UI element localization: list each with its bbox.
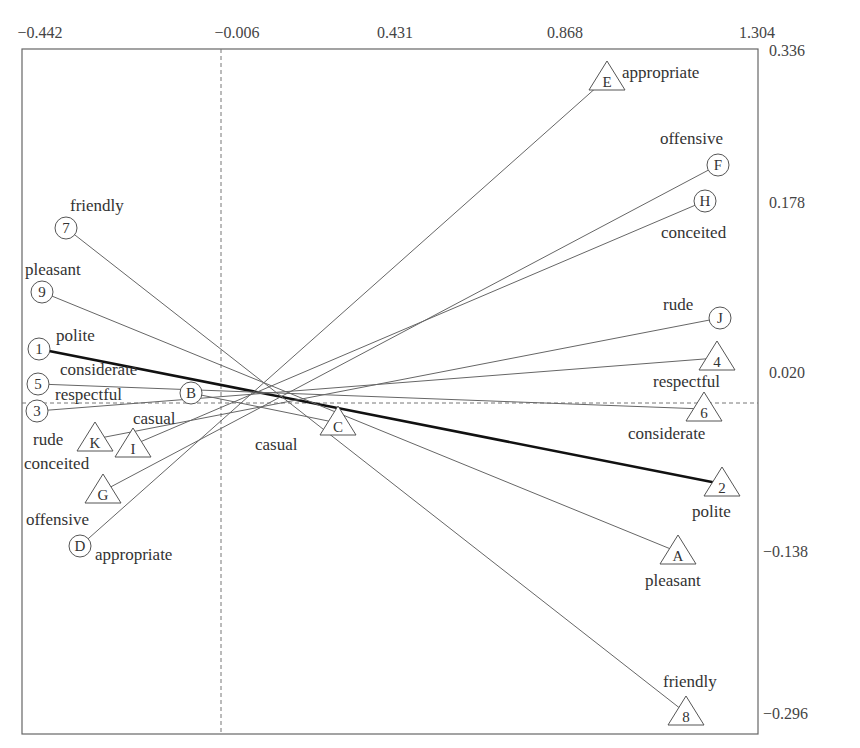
svg-text:4: 4 <box>713 354 721 370</box>
circle-marker-1: 1 <box>28 338 50 360</box>
point-label: rude <box>33 430 63 449</box>
point-label: respectful <box>55 385 122 404</box>
svg-text:G: G <box>98 487 109 503</box>
triangle-marker-G: G <box>85 474 121 503</box>
x-tick-label: −0.006 <box>214 24 259 41</box>
svg-text:C: C <box>333 419 343 435</box>
connection-line <box>66 228 686 713</box>
connection-line <box>133 201 705 445</box>
svg-text:K: K <box>90 435 101 451</box>
svg-text:6: 6 <box>700 405 708 421</box>
point-label: casual <box>255 435 298 454</box>
triangle-marker-A: A <box>660 535 696 564</box>
svg-text:5: 5 <box>34 376 42 392</box>
point-label: pleasant <box>645 571 701 590</box>
circle-marker-D: D <box>69 535 91 557</box>
y-tick-label: −0.138 <box>763 543 808 560</box>
y-axis-ticks: 0.3360.1780.020−0.138−0.296 <box>763 42 808 722</box>
point-label: polite <box>692 502 731 521</box>
point-label: offensive <box>660 129 723 148</box>
circle-marker-9: 9 <box>31 281 53 303</box>
point-label: pleasant <box>25 260 81 279</box>
svg-text:I: I <box>131 441 136 457</box>
triangle-marker-4: 4 <box>699 341 735 370</box>
point-label: polite <box>56 326 95 345</box>
triangle-marker-8: 8 <box>668 696 704 725</box>
point-label: considerate <box>60 360 137 379</box>
point-label: casual <box>133 409 176 428</box>
point-label: respectful <box>653 372 720 391</box>
triangle-marker-6: 6 <box>686 392 722 421</box>
svg-text:3: 3 <box>33 403 41 419</box>
x-tick-label: 0.868 <box>547 24 583 41</box>
circle-marker-H: H <box>694 190 716 212</box>
point-label: friendly <box>70 196 124 215</box>
point-labels: appropriateoffensiveconceitedruderespect… <box>24 63 731 691</box>
x-axis-ticks: −0.442−0.0060.4310.8681.304 <box>17 24 775 41</box>
x-tick-label: −0.442 <box>17 24 62 41</box>
connection-line <box>38 384 704 409</box>
circle-marker-B: B <box>180 382 202 404</box>
x-tick-label: 0.431 <box>377 24 413 41</box>
svg-text:7: 7 <box>62 220 70 236</box>
connection-line <box>80 78 607 546</box>
point-label: considerate <box>628 424 705 443</box>
svg-text:D: D <box>75 538 86 554</box>
svg-text:E: E <box>602 74 611 90</box>
point-label: conceited <box>661 223 727 242</box>
x-tick-label: 1.304 <box>739 24 775 41</box>
svg-text:F: F <box>714 157 722 173</box>
y-tick-label: 0.020 <box>769 364 805 381</box>
point-label: appropriate <box>95 545 172 564</box>
svg-text:J: J <box>717 310 723 326</box>
plot-frame <box>22 49 758 734</box>
point-label: offensive <box>26 510 89 529</box>
biplot-chart: −0.442−0.0060.4310.8681.304 0.3360.1780.… <box>0 0 860 748</box>
svg-text:9: 9 <box>38 284 46 300</box>
point-label: appropriate <box>622 63 699 82</box>
circle-marker-5: 5 <box>27 373 49 395</box>
connection-lines <box>37 78 722 713</box>
circle-marker-3: 3 <box>26 400 48 422</box>
connection-line <box>191 393 338 423</box>
svg-text:1: 1 <box>35 341 43 357</box>
circle-marker-F: F <box>707 154 729 176</box>
triangle-marker-I: I <box>115 428 151 457</box>
point-label: conceited <box>24 454 90 473</box>
svg-text:2: 2 <box>718 480 726 496</box>
circle-marker-J: J <box>709 307 731 329</box>
svg-text:8: 8 <box>682 709 690 725</box>
circle-marker-7: 7 <box>55 217 77 239</box>
y-tick-label: 0.336 <box>769 42 805 59</box>
svg-text:A: A <box>673 548 684 564</box>
svg-text:B: B <box>186 385 196 401</box>
point-markers: 123456789ABCDEFGHIJK <box>26 61 740 725</box>
svg-text:H: H <box>700 193 711 209</box>
triangle-marker-E: E <box>589 61 625 90</box>
y-tick-label: −0.296 <box>763 705 808 722</box>
connection-line <box>103 165 718 491</box>
y-tick-label: 0.178 <box>769 194 805 211</box>
point-label: friendly <box>663 672 717 691</box>
point-label: rude <box>663 295 693 314</box>
